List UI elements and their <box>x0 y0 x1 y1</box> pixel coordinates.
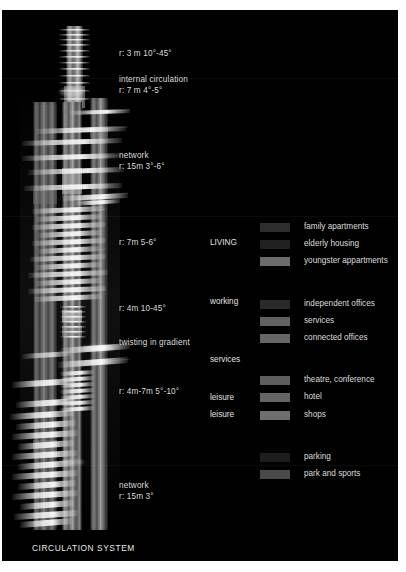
category-working: working <box>210 297 238 306</box>
legend-swatch <box>260 257 290 266</box>
legend-label: connected offices <box>304 331 368 344</box>
legend-group-divider <box>260 425 398 450</box>
legend-item-services: services <box>260 314 398 331</box>
diagram-page: r: 3 m 10°-45° internal circulation r: 7… <box>0 0 406 572</box>
annotation-network-lower: network r: 15m 3° <box>119 480 154 502</box>
legend-item-theatre-conference: theatre, conference <box>260 373 398 390</box>
legend-label: park and sports <box>304 467 360 480</box>
legend-label: parking <box>304 450 331 463</box>
annotation-line: r: 4m 10-45° <box>119 303 166 314</box>
annotation-twisting-in-gradient: twisting in gradient <box>119 337 190 348</box>
annotation-line: twisting in gradient <box>119 337 190 348</box>
annotation-line: r: 15m 3° <box>119 491 154 502</box>
annotation-line: r: 7m 5-6° <box>119 237 157 248</box>
legend-swatch <box>260 223 290 232</box>
legend: family apartments elderly housing youngs… <box>260 220 398 484</box>
legend-swatch <box>260 334 290 343</box>
legend-swatch <box>260 376 290 385</box>
page-title: CIRCULATION SYSTEM <box>32 543 135 553</box>
legend-swatch <box>260 393 290 402</box>
legend-item-youngster-appartments: youngster appartments <box>260 254 398 271</box>
legend-swatch <box>260 411 290 420</box>
annotation-line: r: 4m-7m 5°-10° <box>119 386 179 397</box>
legend-label: youngster appartments <box>304 254 388 267</box>
category-leisure-2: leisure <box>210 410 234 419</box>
legend-swatch <box>260 470 290 479</box>
legend-label: family apartments <box>304 220 369 233</box>
annotation-line: r: 3 m 10°-45° <box>119 48 172 59</box>
annotation-r7m: r: 7m 5-6° <box>119 237 157 248</box>
legend-swatch <box>260 453 290 462</box>
annotation-r4m-7m: r: 4m-7m 5°-10° <box>119 386 179 397</box>
annotation-line: internal circulation <box>119 74 188 85</box>
legend-item-elderly-housing: elderly housing <box>260 237 398 254</box>
annotation-line: network <box>119 150 165 161</box>
seam-line <box>2 216 398 217</box>
category-services: services <box>210 355 240 364</box>
legend-label: hotel <box>304 390 322 403</box>
legend-label: independent offices <box>304 297 375 310</box>
legend-label: services <box>304 314 334 327</box>
annotation-r3m: r: 3 m 10°-45° <box>119 48 172 59</box>
legend-item-parking: parking <box>260 450 398 467</box>
diagram-plate: r: 3 m 10°-45° internal circulation r: 7… <box>2 10 398 561</box>
legend-label: shops <box>304 408 326 421</box>
annotation-internal-circulation: internal circulation r: 7 m 4°-5° <box>119 74 188 96</box>
legend-group-divider <box>260 272 398 297</box>
category-living: LIVING <box>210 238 237 247</box>
annotation-r4m: r: 4m 10-45° <box>119 303 166 314</box>
legend-swatch <box>260 300 290 309</box>
legend-item-park-and-sports: park and sports <box>260 467 398 484</box>
legend-item-family-apartments: family apartments <box>260 220 398 237</box>
annotation-line: r: 15m 3°-6° <box>119 161 165 172</box>
legend-label: theatre, conference <box>304 373 375 386</box>
annotation-line: network <box>119 480 154 491</box>
legend-swatch <box>260 317 290 326</box>
legend-group-divider <box>260 348 398 373</box>
annotation-line: r: 7 m 4°-5° <box>119 85 188 96</box>
legend-label: elderly housing <box>304 237 359 250</box>
annotation-network-upper: network r: 15m 3°-6° <box>119 150 165 172</box>
legend-swatch <box>260 240 290 249</box>
category-leisure-1: leisure <box>210 393 234 402</box>
legend-item-connected-offices: connected offices <box>260 331 398 348</box>
legend-item-shops: shops <box>260 408 398 425</box>
legend-item-independent-offices: independent offices <box>260 297 398 314</box>
seam-line <box>2 78 398 79</box>
legend-item-hotel: hotel <box>260 390 398 407</box>
